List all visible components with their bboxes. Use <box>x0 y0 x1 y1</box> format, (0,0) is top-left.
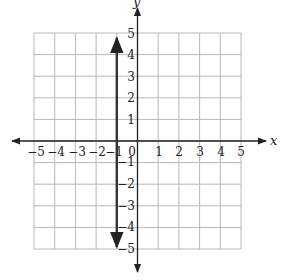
y-tick: 5 <box>127 27 135 41</box>
x-tick: −3 <box>68 145 86 159</box>
y-axis-label: y <box>132 0 141 9</box>
x-tick-labels: −5 −4 −3 −2 −1 0 1 2 3 4 5 <box>27 145 245 159</box>
y-tick: −1 <box>117 155 135 169</box>
y-tick: −5 <box>117 242 135 256</box>
x-tick: 3 <box>196 145 204 159</box>
y-tick: −4 <box>117 220 135 234</box>
x-tick: 2 <box>175 145 183 159</box>
y-tick: 3 <box>127 70 135 84</box>
x-tick: 4 <box>217 145 225 159</box>
x-tick: −2 <box>88 145 106 159</box>
y-tick: 1 <box>127 113 135 127</box>
x-tick: 1 <box>155 145 163 159</box>
x-tick: 5 <box>237 145 245 159</box>
y-tick: −2 <box>117 177 135 191</box>
coordinate-plane: x y −5 −4 −3 −2 −1 0 1 2 3 4 5 5 4 3 2 1… <box>0 0 282 280</box>
x-tick: −5 <box>27 145 45 159</box>
y-tick: 2 <box>127 91 135 105</box>
x-tick: −4 <box>47 145 65 159</box>
x-axis-label: x <box>270 133 278 148</box>
y-tick: −3 <box>117 199 135 213</box>
y-tick: 4 <box>127 48 135 62</box>
